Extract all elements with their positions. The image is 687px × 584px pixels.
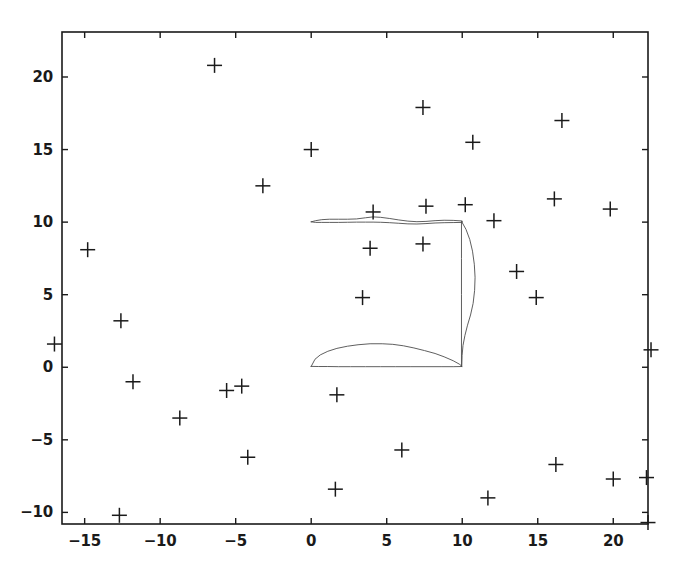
shape-group — [311, 217, 475, 367]
x-tick-label-1: −10 — [144, 532, 177, 550]
x-tick-label-3: 0 — [306, 532, 316, 550]
data-point-33[interactable] — [112, 508, 127, 523]
data-point-15[interactable] — [509, 264, 524, 279]
data-point-25[interactable] — [172, 411, 187, 426]
plot-frame — [62, 32, 648, 524]
data-point-9[interactable] — [547, 191, 562, 206]
data-point-30[interactable] — [480, 490, 495, 505]
data-point-19[interactable] — [47, 337, 62, 352]
data-point-12[interactable] — [80, 242, 95, 257]
y-tick-label-3: 5 — [0, 286, 53, 304]
shape-right-curved-blade — [462, 222, 475, 366]
x-tick-label-2: −5 — [224, 532, 247, 550]
data-point-16[interactable] — [355, 290, 370, 305]
data-point-2[interactable] — [554, 113, 569, 128]
data-point-28[interactable] — [548, 457, 563, 472]
x-tick-label-0: −15 — [68, 532, 101, 550]
data-point-8[interactable] — [458, 197, 473, 212]
data-point-13[interactable] — [363, 241, 378, 256]
data-point-23[interactable] — [234, 379, 249, 394]
data-point-21[interactable] — [125, 374, 140, 389]
data-point-17[interactable] — [529, 290, 544, 305]
data-point-0[interactable] — [207, 58, 222, 73]
y-tick-label-0: −10 — [0, 503, 53, 521]
y-tick-label-1: −5 — [0, 431, 53, 449]
scatter-plot-figure: −15−10−505101520−10−505101520 — [0, 0, 687, 584]
data-point-3[interactable] — [304, 142, 319, 157]
data-point-26[interactable] — [240, 450, 255, 465]
data-point-7[interactable] — [418, 199, 433, 214]
x-tick-label-6: 15 — [527, 532, 547, 550]
data-point-5[interactable] — [255, 178, 270, 193]
data-point-22[interactable] — [219, 383, 234, 398]
scatter-points — [47, 58, 659, 530]
x-tick-label-7: 20 — [603, 532, 623, 550]
data-point-11[interactable] — [486, 213, 501, 228]
y-tick-label-6: 20 — [0, 68, 53, 86]
data-point-27[interactable] — [394, 442, 409, 457]
y-tick-label-4: 10 — [0, 213, 53, 231]
data-point-32[interactable] — [639, 470, 654, 485]
data-point-1[interactable] — [415, 100, 430, 115]
data-point-31[interactable] — [606, 472, 621, 487]
plot-canvas — [0, 0, 687, 584]
data-point-20[interactable] — [644, 342, 659, 357]
data-point-14[interactable] — [415, 236, 430, 251]
data-point-24[interactable] — [329, 387, 344, 402]
data-point-4[interactable] — [465, 135, 480, 150]
x-tick-label-4: 5 — [382, 532, 392, 550]
y-tick-label-5: 15 — [0, 141, 53, 159]
data-point-10[interactable] — [603, 202, 618, 217]
data-point-18[interactable] — [113, 313, 128, 328]
data-point-29[interactable] — [328, 482, 343, 497]
data-point-34[interactable] — [641, 515, 656, 530]
y-tick-label-2: 0 — [0, 358, 53, 376]
shape-upper-airfoil-outline — [311, 217, 462, 224]
x-tick-label-5: 10 — [452, 532, 472, 550]
shape-lower-airfoil-outline — [311, 344, 462, 367]
